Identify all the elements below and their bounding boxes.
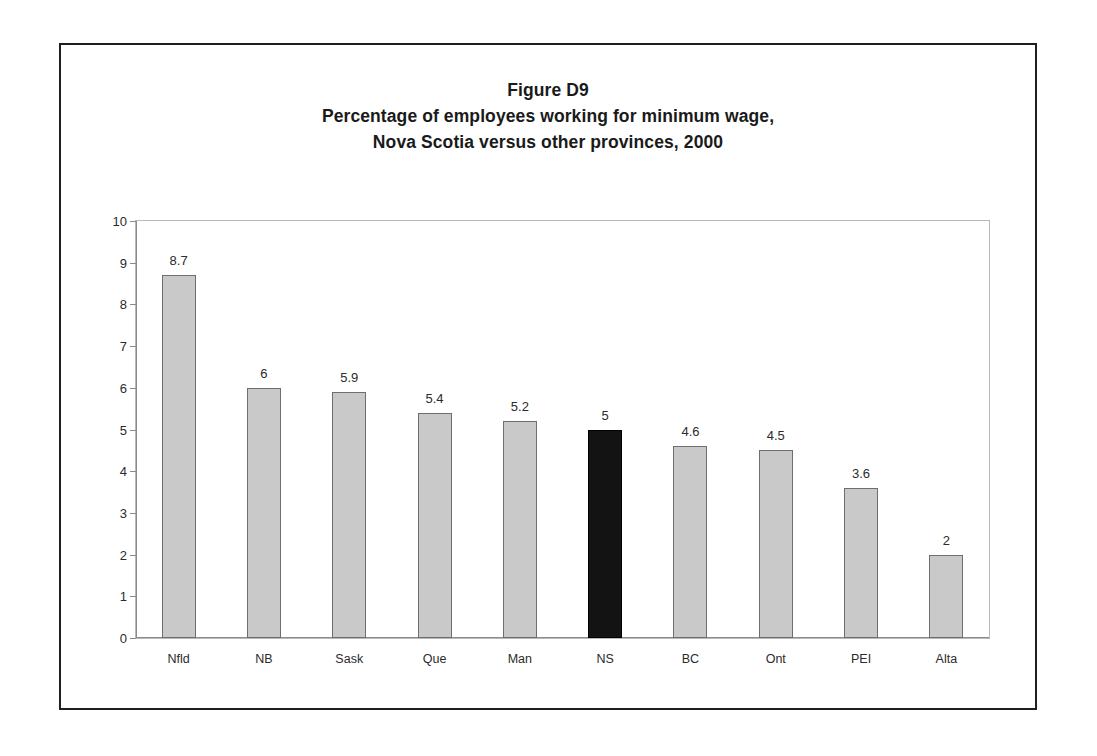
bar-slot: 8.7Nfld: [162, 221, 196, 638]
y-axis-tick: [130, 388, 136, 389]
bar-value-label: 4.6: [681, 424, 699, 439]
bar-que[interactable]: [418, 413, 452, 638]
bar-slot: 5.2Man: [503, 221, 537, 638]
y-axis-tick: [130, 471, 136, 472]
x-axis-category-label: Ont: [766, 652, 786, 666]
y-axis-tick-label: 4: [120, 464, 127, 479]
y-axis-tick-label: 3: [120, 505, 127, 520]
bar-bc[interactable]: [673, 446, 707, 638]
bar-nb[interactable]: [247, 388, 281, 638]
bar-nfld[interactable]: [162, 275, 196, 638]
x-axis-category-label: Man: [508, 652, 532, 666]
title-line-figure-number: Figure D9: [61, 77, 1035, 103]
y-axis-tick: [130, 263, 136, 264]
y-axis-tick: [130, 304, 136, 305]
y-axis-tick-label: 2: [120, 547, 127, 562]
bar-slot: 6NB: [247, 221, 281, 638]
bar-man[interactable]: [503, 421, 537, 638]
y-axis-tick-label: 0: [120, 631, 127, 646]
bar-sask[interactable]: [332, 392, 366, 638]
y-axis-line: [136, 221, 137, 638]
bar-slot: 3.6PEI: [844, 221, 878, 638]
y-axis-tick: [130, 346, 136, 347]
bar-value-label: 3.6: [852, 466, 870, 481]
bar-value-label: 2: [943, 533, 950, 548]
x-axis-category-label: Nfld: [168, 652, 190, 666]
y-axis-tick-label: 9: [120, 255, 127, 270]
y-axis-tick: [130, 638, 136, 639]
bar-value-label: 5.2: [511, 399, 529, 414]
bar-pei[interactable]: [844, 488, 878, 638]
x-axis-category-label: Que: [423, 652, 447, 666]
bar-slot: 5.4Que: [418, 221, 452, 638]
plot-area: 109876543210 8.7Nfld6NB5.9Sask5.4Que5.2M…: [135, 220, 990, 639]
y-axis-tick: [130, 513, 136, 514]
y-axis-tick-label: 6: [120, 380, 127, 395]
title-line-scope: Nova Scotia versus other provinces, 2000: [61, 129, 1035, 155]
bar-ns[interactable]: [588, 430, 622, 639]
y-axis-tick: [130, 596, 136, 597]
bar-value-label: 5: [602, 408, 609, 423]
bar-value-label: 4.5: [767, 428, 785, 443]
y-axis-tick-label: 1: [120, 589, 127, 604]
y-axis-tick-label: 10: [113, 214, 127, 229]
y-axis-tick-label: 5: [120, 422, 127, 437]
bar-ont[interactable]: [759, 450, 793, 638]
y-axis-tick: [130, 430, 136, 431]
x-axis-category-label: PEI: [851, 652, 871, 666]
bar-alta[interactable]: [929, 555, 963, 638]
bar-value-label: 6: [260, 366, 267, 381]
bar-value-label: 5.9: [340, 370, 358, 385]
chart-title: Figure D9 — Percentage of employees work…: [61, 77, 1035, 155]
y-axis-tick: [130, 555, 136, 556]
figure-frame: Figure D9 — Percentage of employees work…: [59, 43, 1037, 710]
bar-slot: 5.9Sask: [332, 221, 366, 638]
y-axis-tick-label: 7: [120, 339, 127, 354]
title-line-description: Percentage of employees working for mini…: [61, 103, 1035, 129]
x-axis-category-label: Alta: [936, 652, 958, 666]
bar-slot: 2Alta: [929, 221, 963, 638]
bar-slot: 4.5Ont: [759, 221, 793, 638]
bar-value-label: 5.4: [426, 391, 444, 406]
bar-value-label: 8.7: [170, 253, 188, 268]
x-axis-category-label: BC: [682, 652, 699, 666]
x-axis-category-label: Sask: [335, 652, 363, 666]
y-axis-tick: [130, 221, 136, 222]
bar-slot: 5NS: [588, 221, 622, 638]
y-axis-tick-label: 8: [120, 297, 127, 312]
bar-slot: 4.6BC: [673, 221, 707, 638]
x-axis-category-label: NS: [596, 652, 613, 666]
x-axis-category-label: NB: [255, 652, 272, 666]
